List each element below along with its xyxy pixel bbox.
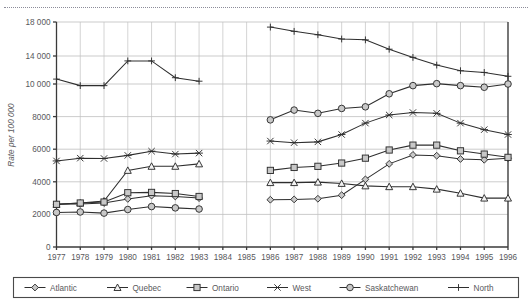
x-tick-label: 1989 — [333, 253, 352, 262]
diamond-marker — [314, 195, 321, 202]
x-tick-label: 1982 — [166, 253, 185, 262]
x-tick-label: 1994 — [451, 253, 470, 262]
y-tick-label: 2000 — [32, 210, 51, 219]
x-tick-label: 1988 — [309, 253, 328, 262]
legend-label: Saskatchewan — [365, 284, 419, 293]
x-tick-label: 1981 — [142, 253, 161, 262]
y-tick-label: 10 000 — [25, 80, 50, 89]
series-north — [53, 24, 511, 89]
square-marker — [505, 154, 511, 160]
square-marker — [196, 193, 202, 199]
square-marker — [434, 142, 440, 148]
x-tick-label: 1992 — [404, 253, 423, 262]
square-marker — [457, 148, 463, 154]
plus-marker — [148, 58, 155, 65]
plus-marker — [362, 36, 369, 43]
circle-marker — [315, 110, 322, 117]
circle-marker — [481, 84, 488, 91]
circle-marker — [148, 203, 155, 210]
plus-marker — [457, 67, 464, 74]
diamond-marker — [433, 152, 440, 159]
square-marker — [125, 190, 131, 196]
gridlines-group — [57, 22, 509, 247]
plus-marker — [196, 78, 203, 85]
circle-marker — [386, 90, 393, 97]
legend-box — [14, 278, 519, 298]
circle-marker — [505, 81, 512, 88]
square-marker — [362, 155, 368, 161]
legend-label: Atlantic — [50, 284, 77, 293]
series-saskatchewan — [53, 80, 511, 216]
plus-marker — [481, 69, 488, 76]
circle-marker — [101, 210, 108, 217]
y-axis-title-text: Rate per 100 000 — [7, 103, 16, 167]
series-atlantic — [53, 152, 511, 208]
x-tick-label: 1986 — [261, 253, 280, 262]
x-tick-label: 1993 — [428, 253, 447, 262]
x-tick-label: 1985 — [238, 253, 257, 262]
circle-marker — [433, 80, 440, 87]
x-tick-label: 1978 — [71, 253, 90, 262]
square-marker — [481, 151, 487, 157]
square-marker — [291, 164, 297, 170]
circle-marker — [196, 206, 203, 213]
circle-marker — [410, 82, 417, 89]
circle-marker — [347, 284, 354, 291]
x-tick-labels: 1977197819791980198119821983198419851986… — [47, 253, 517, 262]
plus-marker — [505, 73, 512, 80]
plus-marker — [338, 36, 345, 43]
circle-marker — [172, 205, 179, 212]
chart-figure: 0200040006000800010 00014 00018 000 1977… — [0, 0, 532, 303]
square-marker — [315, 163, 321, 169]
diamond-marker — [457, 156, 464, 163]
circle-marker — [53, 209, 60, 216]
y-tick-label: 14 000 — [25, 52, 50, 61]
y-tick-label: 18 000 — [25, 18, 50, 27]
plus-marker — [433, 62, 440, 69]
line-chart-svg: 0200040006000800010 00014 00018 000 1977… — [0, 0, 532, 303]
plus-marker — [267, 24, 274, 31]
diamond-marker — [291, 196, 298, 203]
x-tick-label: 1984 — [214, 253, 233, 262]
y-axis-title: Rate per 100 000 — [7, 103, 16, 167]
x-tick-label: 1990 — [356, 253, 375, 262]
square-marker — [148, 189, 154, 195]
plus-marker — [386, 46, 393, 53]
x-tick-label: 1991 — [380, 253, 399, 262]
y-tick-label: 4000 — [32, 178, 51, 187]
square-marker — [386, 147, 392, 153]
circle-marker — [77, 209, 84, 216]
square-marker — [410, 142, 416, 148]
square-marker — [77, 200, 83, 206]
x-tick-label: 1996 — [499, 253, 518, 262]
legend-label: Quebec — [133, 284, 162, 293]
circle-marker — [362, 104, 369, 111]
plus-marker — [410, 54, 417, 61]
legend-label: West — [293, 284, 312, 293]
circle-marker — [267, 117, 274, 124]
circle-marker — [291, 107, 298, 114]
series-ontario — [53, 142, 511, 207]
diamond-marker — [267, 196, 274, 203]
chart-legend[interactable]: AtlanticQuebecOntarioWestSaskatchewanNor… — [14, 278, 519, 298]
x-tick-label: 1987 — [285, 253, 304, 262]
diamond-marker — [124, 196, 131, 203]
square-marker — [194, 284, 200, 290]
x-tick-label: 1995 — [475, 253, 494, 262]
diamond-marker — [410, 152, 417, 159]
square-marker — [53, 201, 59, 207]
square-marker — [172, 190, 178, 196]
square-marker — [267, 167, 273, 173]
series-group — [53, 24, 512, 217]
plus-marker — [77, 82, 84, 89]
circle-marker — [338, 105, 345, 112]
series-west — [53, 109, 512, 164]
square-marker — [339, 160, 345, 166]
legend-label: Ontario — [212, 284, 239, 293]
x-tick-label: 1983 — [190, 253, 209, 262]
diamond-marker — [338, 192, 345, 199]
diamond-marker — [386, 160, 393, 167]
x-tick-label: 1979 — [95, 253, 114, 262]
circle-marker — [457, 82, 464, 89]
y-tick-label: 8000 — [32, 113, 51, 122]
